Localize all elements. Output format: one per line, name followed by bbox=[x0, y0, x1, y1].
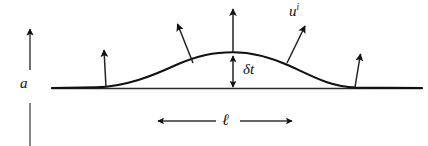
velocity-arrow-1 bbox=[104, 50, 106, 87]
amplitude-scale-label: a bbox=[20, 76, 28, 91]
velocity-field-superscript: i bbox=[297, 2, 300, 12]
velocity-field-base: u bbox=[289, 3, 297, 19]
length-scale-label: ℓ bbox=[222, 112, 229, 128]
diagram-canvas bbox=[0, 0, 428, 146]
velocity-arrow-3 bbox=[287, 26, 305, 63]
velocity-arrow-2 bbox=[178, 24, 194, 63]
bump-height-label: δt bbox=[243, 62, 254, 77]
velocity-arrow-4 bbox=[355, 54, 361, 87]
wave-perturbation-diagram: a δt ui ℓ bbox=[0, 0, 428, 146]
perturbed-surface-curve bbox=[52, 52, 422, 88]
velocity-field-label: ui bbox=[289, 3, 299, 19]
